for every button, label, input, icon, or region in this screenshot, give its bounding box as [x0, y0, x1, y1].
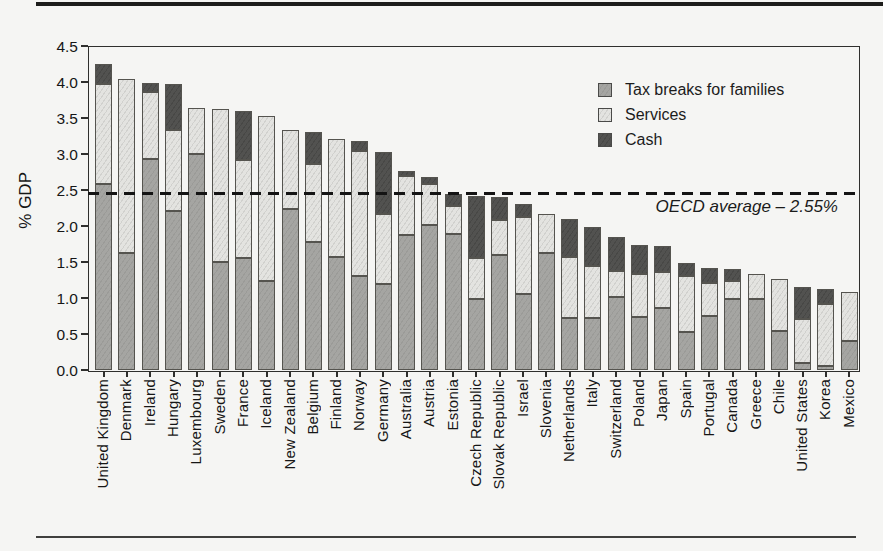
x-axis-label: Israel — [514, 379, 531, 417]
bar-segment-cash — [584, 227, 601, 266]
legend-item-tax-breaks: Tax breaks for families — [598, 82, 784, 98]
x-tick-mark — [149, 372, 151, 377]
bar-segment-cash — [631, 245, 648, 274]
x-axis-label: Hungary — [164, 379, 181, 437]
x-axis-label: Norway — [350, 379, 367, 431]
bar-segment-cash — [468, 196, 485, 258]
bar-segment-services — [538, 214, 555, 252]
oecd-average-dashed-line — [88, 192, 860, 195]
bar-segment-tax — [445, 234, 462, 370]
bar-segment-tax — [701, 316, 718, 370]
bar-segment-services — [445, 206, 462, 234]
x-tick-mark — [685, 372, 687, 377]
y-tick-label: 2.5 — [38, 183, 78, 198]
bar-segment-tax — [468, 299, 485, 370]
y-tick-mark — [81, 225, 88, 227]
bar-segment-services — [631, 274, 648, 316]
y-tick-mark — [81, 153, 88, 155]
bar-segment-services — [165, 130, 182, 211]
bar-segment-tax — [165, 211, 182, 370]
bar-segment-cash — [794, 287, 811, 319]
bar-segment-services — [584, 266, 601, 319]
x-axis-label: Mexico — [840, 379, 857, 428]
x-tick-mark — [708, 372, 710, 377]
figure-container: % GDP OECD average – 2.55% Tax breaks fo… — [0, 0, 883, 551]
bar-segment-services — [724, 281, 741, 299]
x-axis-label: Portugal — [700, 379, 717, 436]
x-tick-mark — [592, 372, 594, 377]
y-tick-mark — [81, 333, 88, 335]
bar-segment-cash — [305, 132, 322, 164]
x-axis-label: Switzerland — [607, 379, 624, 459]
x-axis-label: Belgium — [304, 379, 321, 435]
bar-segment-cash — [724, 269, 741, 281]
x-tick-mark — [289, 372, 291, 377]
legend-swatch-tax-breaks-icon — [598, 83, 612, 97]
bar-segment-cash — [561, 219, 578, 257]
y-tick-mark — [81, 189, 88, 191]
y-axis-title: % GDP — [16, 172, 36, 229]
bar-segment-cash — [445, 194, 462, 206]
bar-segment-services — [678, 276, 695, 331]
bar-segment-cash — [142, 83, 159, 92]
bar-segment-cash — [95, 64, 112, 84]
bar-segment-services — [654, 272, 671, 308]
bar-segment-tax — [212, 262, 229, 370]
bar-segment-tax — [351, 276, 368, 370]
bar-segment-services — [468, 258, 485, 299]
legend-swatch-services-icon — [598, 108, 612, 122]
bar-segment-tax — [608, 297, 625, 370]
bar-segment-services — [258, 116, 275, 281]
bar-segment-cash — [515, 204, 532, 217]
bar-segment-tax — [375, 284, 392, 370]
bar-segment-tax — [235, 258, 252, 370]
legend-label-tax-breaks: Tax breaks for families — [625, 82, 784, 98]
bar-segment-services — [771, 279, 788, 331]
bar-segment-services — [118, 79, 135, 253]
x-axis-label: Italy — [583, 379, 600, 408]
x-tick-mark — [406, 372, 408, 377]
x-tick-mark — [173, 372, 175, 377]
x-tick-mark — [639, 372, 641, 377]
y-tick-mark — [81, 261, 88, 263]
x-tick-mark — [266, 372, 268, 377]
bar-segment-services — [515, 217, 532, 294]
x-tick-mark — [615, 372, 617, 377]
x-tick-mark — [219, 372, 221, 377]
bar-segment-tax — [258, 281, 275, 370]
x-axis-label: Canada — [723, 379, 740, 433]
bar-segment-services — [817, 304, 834, 365]
y-tick-label: 1.0 — [38, 291, 78, 306]
bar-segment-tax — [654, 308, 671, 370]
x-tick-mark — [569, 372, 571, 377]
bar-segment-services — [188, 108, 205, 154]
x-tick-mark — [336, 372, 338, 377]
bar-segment-tax — [142, 159, 159, 370]
bar-segment-tax — [515, 294, 532, 370]
legend-label-services: Services — [625, 107, 686, 123]
y-tick-mark — [81, 297, 88, 299]
x-axis-label: Poland — [630, 379, 647, 427]
y-tick-label: 1.5 — [38, 255, 78, 270]
x-tick-mark — [429, 372, 431, 377]
x-axis-label: Slovenia — [537, 379, 554, 438]
y-tick-mark — [81, 45, 88, 47]
x-tick-mark — [312, 372, 314, 377]
x-axis-label: Slovak Republic — [490, 379, 507, 490]
x-tick-mark — [126, 372, 128, 377]
x-axis-label: Luxembourg — [187, 379, 204, 464]
y-tick-mark — [81, 369, 88, 371]
x-tick-mark — [499, 372, 501, 377]
bar-segment-services — [701, 283, 718, 316]
bar-segment-cash — [678, 263, 695, 277]
bar-segment-services — [375, 214, 392, 285]
x-tick-mark — [196, 372, 198, 377]
x-tick-mark — [242, 372, 244, 377]
bar-segment-cash — [165, 84, 182, 130]
bar-segment-cash — [351, 141, 368, 151]
bar-segment-tax — [561, 318, 578, 370]
bar-segment-tax — [631, 317, 648, 370]
bottom-rule — [36, 536, 856, 538]
x-axis-label: Finland — [327, 379, 344, 430]
x-axis-label: New Zealand — [281, 379, 298, 470]
